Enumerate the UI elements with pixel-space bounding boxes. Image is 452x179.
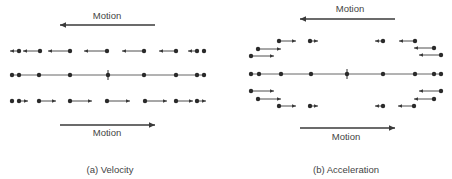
particle-dot: [10, 99, 14, 103]
particle-dot: [439, 89, 443, 93]
vector-arrow-right: [251, 89, 274, 93]
vector-arrow-left: [48, 49, 70, 53]
vector-arrow-left: [419, 89, 441, 93]
acceleration-panel: [249, 16, 443, 130]
particle-dot: [277, 39, 281, 43]
arrowhead-icon: [314, 39, 318, 43]
particle-dot: [381, 104, 385, 108]
vector-arrow-left: [414, 46, 434, 50]
vector-arrow-left: [414, 97, 434, 101]
particle-dot: [195, 49, 199, 53]
vector-arrow-right: [107, 99, 130, 103]
vector-arrow-right: [176, 99, 193, 103]
particle-dot: [105, 99, 109, 103]
particle-dot: [38, 49, 42, 53]
arrowhead-icon: [122, 49, 126, 53]
vector-arrow-left: [399, 39, 415, 43]
arrowhead-icon: [48, 49, 52, 53]
particle-dot: [142, 49, 146, 53]
arrowhead-icon: [24, 99, 28, 103]
particle-dot: [37, 99, 41, 103]
particle-dot: [68, 99, 72, 103]
vector-arrow-right: [279, 39, 296, 43]
particle-dot: [143, 99, 147, 103]
vector-arrow-right: [145, 99, 167, 103]
acceleration-bottom-motion-label: Motion: [332, 131, 361, 142]
arrowhead-icon: [163, 99, 167, 103]
arrowhead-icon: [300, 16, 306, 21]
vector-arrow-left: [122, 49, 144, 53]
particle-dot: [381, 72, 385, 76]
arrowhead-icon: [52, 99, 56, 103]
particle-dot: [105, 49, 109, 53]
particle-dot: [37, 73, 41, 77]
particle-dot: [256, 47, 260, 51]
arrowhead-icon: [60, 22, 66, 27]
arrowhead-icon: [398, 104, 402, 108]
particle-dot: [17, 99, 21, 103]
particle-dot: [249, 72, 253, 76]
particle-dot: [381, 39, 385, 43]
particle-dot: [279, 72, 283, 76]
acceleration-top-motion-label: Motion: [336, 3, 365, 14]
particle-dot: [257, 72, 261, 76]
arrowhead-icon: [277, 47, 281, 51]
particle-dot: [432, 46, 436, 50]
particle-dot: [68, 49, 72, 53]
particle-dot: [439, 72, 443, 76]
arrowhead-icon: [292, 104, 296, 108]
particle-dot: [17, 73, 21, 77]
particle-dot: [256, 97, 260, 101]
arrowhead-icon: [84, 49, 88, 53]
particle-dot: [249, 89, 253, 93]
motion-arrow-right: [300, 125, 395, 130]
particle-dot: [308, 104, 312, 108]
acceleration-caption: (b) Acceleration: [313, 164, 379, 175]
arrowhead-icon: [419, 53, 423, 57]
particle-dot: [174, 73, 178, 77]
particle-dot: [249, 54, 253, 58]
velocity-top-motion-label: Motion: [93, 10, 122, 21]
vector-arrow-right: [70, 99, 92, 103]
arrowhead-icon: [399, 39, 403, 43]
particle-dot: [195, 99, 199, 103]
vector-arrow-left: [419, 53, 441, 57]
particle-dot: [308, 39, 312, 43]
arrowhead-icon: [414, 97, 418, 101]
arrowhead-icon: [314, 104, 318, 108]
vector-arrow-right: [39, 99, 56, 103]
arrowhead-icon: [149, 122, 155, 127]
vector-arrow-right: [258, 97, 281, 101]
particle-dot: [106, 73, 110, 77]
arrowhead-icon: [270, 54, 274, 58]
vector-arrow-right: [251, 54, 274, 58]
arrowhead-icon: [270, 89, 274, 93]
vector-arrow-left: [398, 104, 414, 108]
wave-diagram: [0, 0, 452, 179]
arrowhead-icon: [10, 49, 14, 53]
arrowhead-icon: [88, 99, 92, 103]
velocity-panel: [10, 22, 206, 127]
particle-dot: [413, 72, 417, 76]
vector-arrow-left: [159, 49, 176, 53]
arrowhead-icon: [159, 49, 163, 53]
particle-dot: [174, 49, 178, 53]
arrowhead-icon: [188, 49, 192, 53]
particle-dot: [17, 49, 21, 53]
particle-dot: [68, 73, 72, 77]
particle-dot: [432, 72, 436, 76]
arrowhead-icon: [277, 97, 281, 101]
particle-dot: [174, 99, 178, 103]
particle-dot: [277, 104, 281, 108]
particle-dot: [432, 97, 436, 101]
velocity-bottom-motion-label: Motion: [93, 127, 122, 138]
particle-dot: [413, 39, 417, 43]
particle-dot: [345, 72, 349, 76]
particle-dot: [439, 53, 443, 57]
arrowhead-icon: [126, 99, 130, 103]
particle-dot: [195, 73, 199, 77]
vector-arrow-left: [23, 49, 40, 53]
motion-arrow-left: [60, 22, 155, 27]
arrowhead-icon: [189, 99, 193, 103]
particle-dot: [202, 49, 206, 53]
